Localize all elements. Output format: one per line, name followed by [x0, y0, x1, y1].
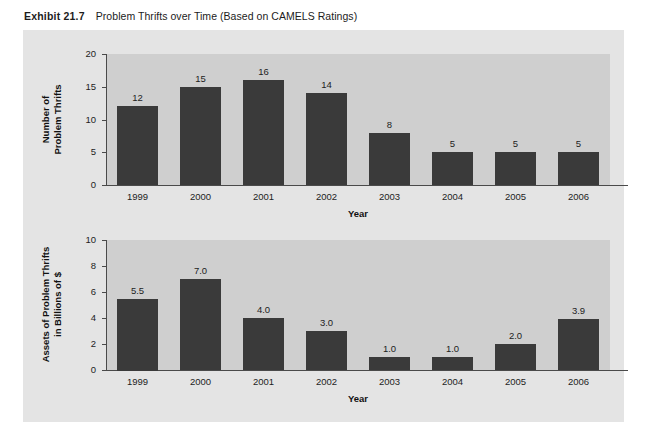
y-axis-tick-label: 10 — [70, 235, 96, 245]
bar — [495, 152, 536, 185]
x-axis-tick-label: 2001 — [233, 377, 295, 387]
bar — [369, 133, 410, 185]
exhibit-title: Exhibit 21.7Problem Thrifts over Time (B… — [24, 10, 624, 26]
x-axis-tick-label: 2005 — [485, 377, 547, 387]
bar — [243, 318, 284, 370]
bar — [306, 331, 347, 370]
bar-value-label: 5 — [422, 139, 484, 149]
x-axis-tick-label: 2000 — [170, 192, 232, 202]
bar-value-label: 1.0 — [422, 344, 484, 354]
chart-number-of-problem-thrifts: 05101520Number ofProblem Thrifts12199915… — [23, 30, 624, 224]
bar-value-label: 3.9 — [548, 306, 610, 316]
x-axis-line — [106, 185, 628, 186]
x-axis-tick-label: 2000 — [170, 377, 232, 387]
x-axis-title: Year — [298, 208, 418, 219]
bar-value-label: 2.0 — [485, 331, 547, 341]
x-axis-tick-label: 2002 — [296, 377, 358, 387]
y-axis-tick-label: 4 — [70, 313, 96, 323]
x-axis-tick-label: 1999 — [107, 377, 169, 387]
x-axis-tick-label: 2002 — [296, 192, 358, 202]
bar — [432, 152, 473, 185]
bar-value-label: 7.0 — [170, 266, 232, 276]
bar — [369, 357, 410, 370]
bar — [243, 80, 284, 185]
x-axis-title: Year — [298, 393, 418, 404]
y-axis-tick-label: 0 — [70, 365, 96, 375]
x-axis-tick-label: 2003 — [359, 192, 421, 202]
y-axis-tick-label: 8 — [70, 261, 96, 271]
bar-value-label: 4.0 — [233, 305, 295, 315]
exhibit-panel: 05101520Number ofProblem Thrifts12199915… — [23, 30, 624, 422]
bar — [495, 344, 536, 370]
y-axis-tick — [102, 120, 107, 121]
y-axis-tick-label: 0 — [70, 180, 96, 190]
y-axis-line — [106, 240, 107, 371]
bar — [117, 299, 158, 371]
y-axis-tick-label: 15 — [70, 82, 96, 92]
y-axis-tick-label: 20 — [70, 49, 96, 59]
y-axis-tick-label: 2 — [70, 339, 96, 349]
bar — [558, 152, 599, 185]
x-axis-tick-label: 1999 — [107, 192, 169, 202]
y-axis-title: Number ofProblem Thrifts — [40, 65, 63, 175]
bar — [306, 93, 347, 185]
exhibit-number: Exhibit 21.7 — [24, 10, 85, 22]
x-axis-tick-label: 2004 — [422, 377, 484, 387]
y-axis-tick — [102, 344, 107, 345]
x-axis-tick-label: 2004 — [422, 192, 484, 202]
y-axis-tick-label: 5 — [70, 147, 96, 157]
bar — [432, 357, 473, 370]
x-axis-tick-label: 2006 — [548, 192, 610, 202]
x-axis-tick-label: 2006 — [548, 377, 610, 387]
bar-value-label: 3.0 — [296, 318, 358, 328]
bar — [117, 106, 158, 185]
y-axis-tick-label: 6 — [70, 287, 96, 297]
x-axis-tick-label: 2005 — [485, 192, 547, 202]
x-axis-line — [106, 370, 628, 371]
y-axis-tick — [102, 318, 107, 319]
y-axis-tick — [102, 87, 107, 88]
exhibit-caption: Problem Thrifts over Time (Based on CAME… — [96, 10, 357, 22]
y-axis-tick — [102, 370, 107, 371]
chart-assets-of-problem-thrifts: 0246810Assets of Problem Thriftsin Billi… — [23, 226, 624, 409]
bar-value-label: 5 — [485, 139, 547, 149]
bar — [180, 87, 221, 185]
bar-value-label: 14 — [296, 80, 358, 90]
bar-value-label: 12 — [107, 93, 169, 103]
bar — [180, 279, 221, 370]
y-axis-tick — [102, 185, 107, 186]
x-axis-tick-label: 2003 — [359, 377, 421, 387]
y-axis-tick — [102, 240, 107, 241]
x-axis-tick-label: 2001 — [233, 192, 295, 202]
bar-value-label: 1.0 — [359, 344, 421, 354]
bar-value-label: 16 — [233, 67, 295, 77]
bar — [558, 319, 599, 370]
bar-value-label: 15 — [170, 74, 232, 84]
bar-value-label: 5.5 — [107, 286, 169, 296]
bar-value-label: 5 — [548, 139, 610, 149]
y-axis-tick — [102, 54, 107, 55]
y-axis-tick — [102, 152, 107, 153]
y-axis-title: Assets of Problem Thriftsin Billions of … — [40, 235, 63, 375]
y-axis-tick — [102, 266, 107, 267]
bar-value-label: 8 — [359, 120, 421, 130]
y-axis-tick-label: 10 — [70, 115, 96, 125]
